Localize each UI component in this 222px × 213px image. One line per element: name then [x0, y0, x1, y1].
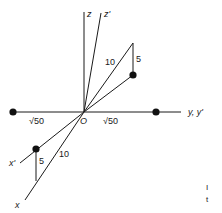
- upper-hypotenuse-label: 10: [105, 57, 115, 67]
- upper-leg-label: 5: [136, 54, 141, 64]
- upper-point: [129, 71, 136, 78]
- y-axis-label: y, y': [187, 107, 203, 117]
- right-y-point: [152, 108, 159, 115]
- margin-mark-2: t: [206, 195, 209, 204]
- left-sqrt50-label: √50: [29, 116, 44, 126]
- origin-label: O: [80, 116, 87, 126]
- x-axis-label: x: [14, 200, 20, 210]
- right-sqrt50-label: √50: [103, 116, 118, 126]
- left-y-point: [9, 108, 16, 115]
- coordinate-diagram: z z' 10 5 y, y' √50 O √50 x' 5 10 x I t: [0, 0, 222, 213]
- margin-mark-1: I: [206, 183, 208, 192]
- lower-leg-label: 5: [39, 156, 44, 166]
- z-prime-axis: [84, 13, 101, 112]
- z-prime-axis-label: z': [103, 9, 111, 19]
- upper-projection-line: [84, 75, 133, 112]
- z-axis-label: z: [86, 9, 92, 19]
- x-prime-axis-label: x': [8, 158, 16, 168]
- upper-hypotenuse-line: [84, 43, 133, 112]
- lower-hypotenuse-label: 10: [59, 149, 69, 159]
- lower-point: [32, 145, 39, 152]
